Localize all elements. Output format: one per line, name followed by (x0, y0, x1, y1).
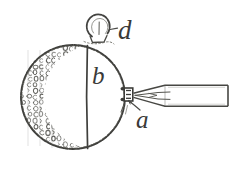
sphere-body (21, 45, 125, 149)
top-ring-knob (84, 14, 118, 44)
hemisphere-divider (87, 46, 88, 149)
sphere-outline-texture (22, 46, 124, 148)
figure-canvas: d b a (0, 0, 237, 170)
stippled-left-hemisphere (22, 45, 87, 149)
label-d: d (118, 17, 132, 44)
label-b: b (92, 63, 105, 88)
attachment-block (121, 87, 133, 101)
tapered-rod (134, 85, 229, 106)
label-a: a (136, 107, 149, 132)
